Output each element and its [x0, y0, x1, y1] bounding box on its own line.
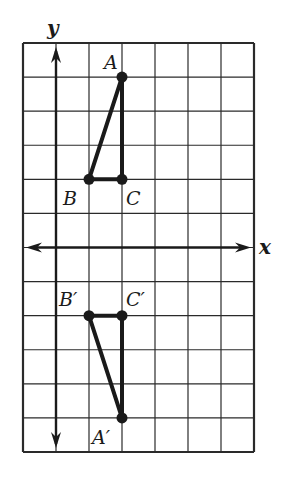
vertex-label: C′ — [126, 288, 146, 310]
coordinate-grid-diagram: yxABCA′B′C′ — [0, 0, 291, 480]
vertex-label: A′ — [90, 426, 111, 448]
vertex-point — [84, 174, 95, 185]
x-axis-label: x — [258, 235, 272, 259]
vertex-label: A — [102, 51, 118, 73]
vertex-point — [117, 174, 128, 185]
vertex-point — [117, 310, 128, 321]
labels: yxABCA′B′C′ — [46, 16, 272, 448]
y-axis-label: y — [46, 16, 60, 40]
vertex-label: B′ — [58, 288, 78, 310]
triangle-abc — [89, 77, 122, 179]
triangle-abc-image — [89, 316, 122, 418]
axes — [26, 47, 251, 448]
vertex-label: C — [126, 187, 141, 209]
vertex-label: B — [62, 187, 77, 209]
vertex-point — [117, 72, 128, 83]
vertex-point — [84, 310, 95, 321]
vertex-point — [117, 412, 128, 423]
